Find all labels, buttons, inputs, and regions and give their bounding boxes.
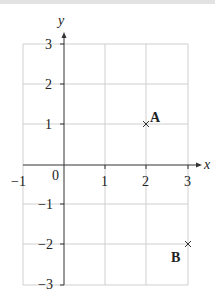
x-tick-2: 2	[142, 174, 149, 189]
x-axis	[23, 163, 202, 168]
x-tick-1: 1	[101, 174, 108, 189]
origin-label: 0	[52, 168, 59, 183]
y-tick-minus-3: −3	[38, 277, 53, 292]
point-b-label: B	[171, 250, 180, 265]
x-tick-3: 3	[184, 174, 191, 189]
y-tick-3: 3	[45, 37, 52, 52]
x-tick-minus-1: −1	[11, 174, 26, 189]
y-tick-minus-2: −2	[38, 237, 53, 252]
y-axis-arrow-icon	[62, 32, 67, 38]
y-tick-1: 1	[45, 117, 52, 132]
x-axis-label: x	[203, 157, 211, 172]
x-ticks	[105, 165, 188, 169]
y-axis-label: y	[56, 13, 65, 28]
coordinate-plane: y x 3 2 1 −1 −2 −3 0 −1 1 2 3 A B	[0, 0, 215, 307]
x-axis-arrow-icon	[196, 163, 202, 168]
y-axis	[62, 32, 67, 285]
point-a-label: A	[150, 110, 161, 125]
y-tick-2: 2	[45, 77, 52, 92]
y-tick-minus-1: −1	[38, 197, 53, 212]
